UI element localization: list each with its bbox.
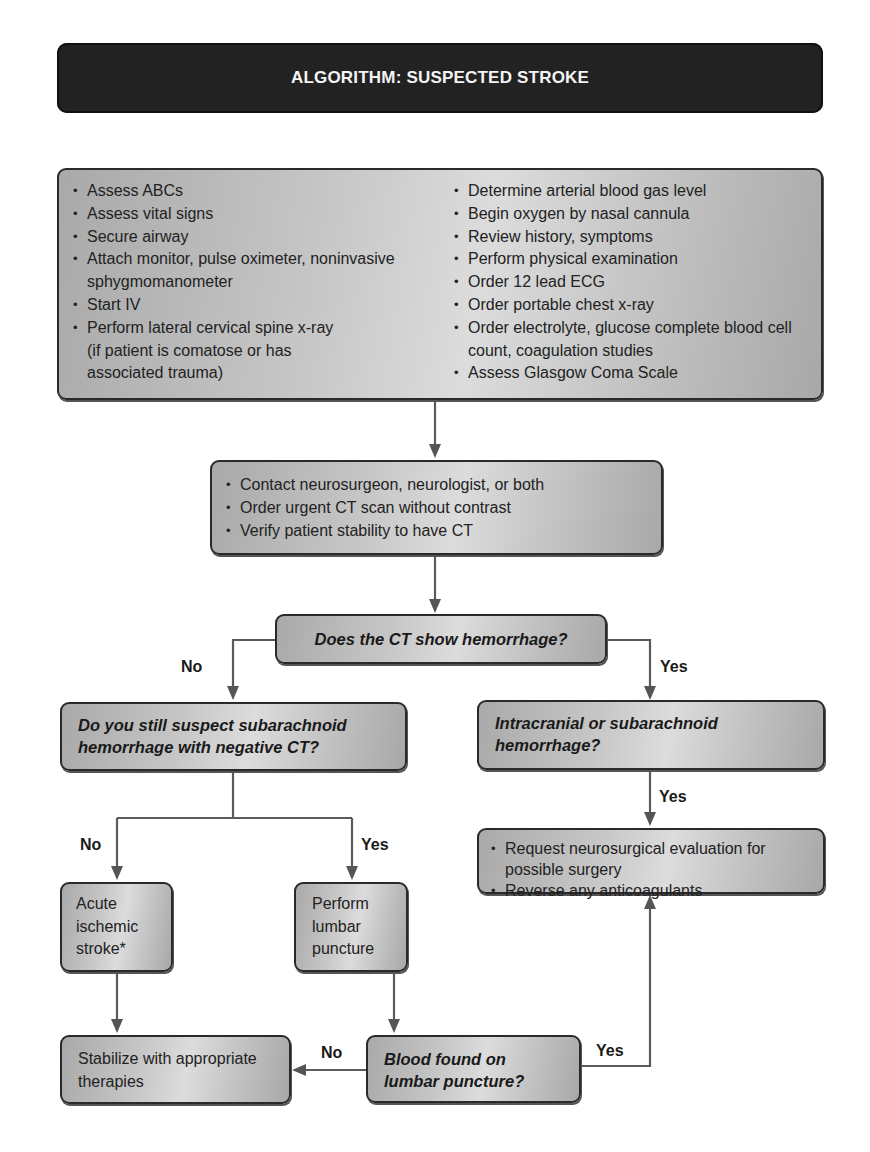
- list-item: Begin oxygen by nasal cannula: [454, 203, 814, 226]
- arrow-ct-yes: [607, 640, 650, 688]
- edge-label-ct-no: No: [181, 658, 202, 676]
- list-item: Order electrolyte, glucose complete bloo…: [454, 317, 814, 363]
- list-item: Order portable chest x-ray: [454, 294, 814, 317]
- list-item: Perform physical examination: [454, 248, 814, 271]
- list-item: Determine arterial blood gas level: [454, 180, 814, 203]
- flowchart-canvas: ALGORITHM: SUSPECTED STROKE Assess ABCs …: [0, 0, 870, 1152]
- outcome-text: Stabilize with appropriate therapies: [78, 1048, 278, 1093]
- outcome-text: Acute ischemic stroke*: [76, 893, 161, 961]
- specialist-ct-box: Contact neurosurgeon, neurologist, or bo…: [210, 460, 663, 555]
- decision-text: Does the CT show hemorrhage?: [314, 628, 567, 650]
- list-item: Secure airway: [73, 226, 403, 249]
- list-item: Perform lateral cervical spine x-ray (if…: [73, 317, 337, 385]
- decision-text: Blood found on lumbar puncture?: [384, 1048, 564, 1092]
- list-item: Assess Glasgow Coma Scale: [454, 362, 814, 385]
- list-item: Assess ABCs: [73, 180, 403, 203]
- perform-lumbar-puncture-box: Perform lumbar puncture: [294, 882, 408, 972]
- list-item: Start IV: [73, 294, 403, 317]
- list-item: Review history, symptoms: [454, 226, 814, 249]
- list-item: Request neurosurgical evaluation for pos…: [491, 838, 811, 880]
- list-item: Reverse any anticoagulants: [491, 880, 811, 901]
- list-item: Order urgent CT scan without contrast: [226, 497, 656, 520]
- initial-actions-box: Assess ABCs Assess vital signs Secure ai…: [57, 168, 823, 400]
- list-item: Attach monitor, pulse oximeter, noninvas…: [73, 248, 403, 294]
- neurosurgical-box: Request neurosurgical evaluation for pos…: [477, 828, 825, 894]
- edge-label-lp-no: No: [321, 1044, 342, 1062]
- list-item: Verify patient stability to have CT: [226, 520, 656, 543]
- suspect-sah-decision: Do you still suspect subarachnoid hemorr…: [60, 702, 407, 771]
- initial-actions-left-list: Assess ABCs Assess vital signs Secure ai…: [73, 180, 403, 385]
- list-item: Order 12 lead ECG: [454, 271, 814, 294]
- acute-ischemic-stroke-box: Acute ischemic stroke*: [60, 882, 173, 972]
- neurosurgical-list: Request neurosurgical evaluation for pos…: [491, 838, 811, 901]
- edge-label-intracranial-yes: Yes: [659, 788, 687, 806]
- ct-hemorrhage-decision: Does the CT show hemorrhage?: [275, 614, 607, 664]
- edge-label-lp-yes: Yes: [596, 1042, 624, 1060]
- blood-on-lp-decision: Blood found on lumbar puncture?: [366, 1035, 581, 1103]
- stabilize-box: Stabilize with appropriate therapies: [60, 1035, 291, 1104]
- list-item: Contact neurosurgeon, neurologist, or bo…: [226, 474, 656, 497]
- intracranial-decision: Intracranial or subarachnoid hemorrhage?: [477, 700, 825, 770]
- algorithm-title: ALGORITHM: SUSPECTED STROKE: [291, 68, 589, 88]
- edge-label-ct-yes: Yes: [660, 658, 688, 676]
- specialist-ct-list: Contact neurosurgeon, neurologist, or bo…: [226, 474, 656, 542]
- arrow-ct-no: [233, 640, 275, 688]
- edge-label-sah-no: No: [80, 836, 101, 854]
- algorithm-title-bar: ALGORITHM: SUSPECTED STROKE: [57, 43, 823, 113]
- list-item: Assess vital signs: [73, 203, 403, 226]
- initial-actions-right-list: Determine arterial blood gas level Begin…: [454, 180, 814, 385]
- edge-label-sah-yes: Yes: [361, 836, 389, 854]
- decision-text: Intracranial or subarachnoid hemorrhage?: [495, 712, 765, 756]
- outcome-text: Perform lumbar puncture: [312, 893, 397, 961]
- decision-text: Do you still suspect subarachnoid hemorr…: [78, 714, 398, 758]
